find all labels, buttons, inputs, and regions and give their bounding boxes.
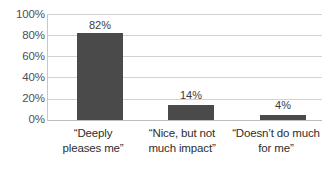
bar-value-label-2: 14% bbox=[180, 89, 202, 101]
x-axis-category-label-2: “Nice, but not much impact” bbox=[134, 126, 230, 156]
bar-group-1: 82% bbox=[67, 14, 133, 120]
bar-chart: 100% 80% 60% 40% 20% 0% 82% 14% 4% “Deep… bbox=[0, 0, 330, 174]
y-axis-tick-label-60: 60% bbox=[1, 51, 45, 62]
y-axis-tick-label-80: 80% bbox=[1, 30, 45, 41]
y-axis-tick-label-100: 100% bbox=[1, 9, 45, 20]
bar-value-label-1: 82% bbox=[89, 19, 111, 31]
bar-3[interactable] bbox=[260, 115, 306, 120]
x-axis-category-label-3: “Doesn’t do much for me” bbox=[224, 126, 328, 156]
y-axis-tick-label-40: 40% bbox=[1, 72, 45, 83]
bar-group-3: 4% bbox=[250, 14, 316, 120]
bar-group-2: 14% bbox=[158, 14, 224, 120]
plot-area: 82% 14% 4% bbox=[47, 14, 322, 120]
y-axis-tick-label-20: 20% bbox=[1, 93, 45, 104]
bar-value-label-3: 4% bbox=[275, 99, 291, 111]
x-axis-baseline bbox=[47, 120, 322, 121]
y-axis-tick-label-0: 0% bbox=[1, 114, 45, 125]
bar-1[interactable] bbox=[77, 33, 123, 120]
x-axis-category-label-1: “Deeply pleases me” bbox=[47, 126, 139, 156]
bar-2[interactable] bbox=[168, 105, 214, 120]
